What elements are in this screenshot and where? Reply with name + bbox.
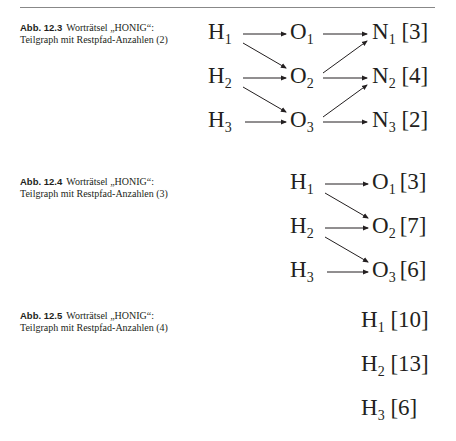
graph-edges <box>0 0 456 441</box>
book-page: Abb. 12.3Worträtsel „HONIG“: Teilgraph m… <box>0 0 456 441</box>
edges-fig-12-3 <box>243 34 367 122</box>
edges-fig-12-4 <box>325 184 368 272</box>
